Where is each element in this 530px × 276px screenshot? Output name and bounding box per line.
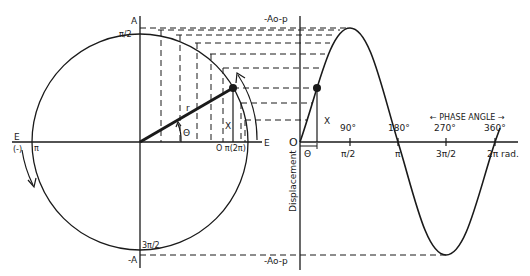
label-origin-O: O bbox=[289, 136, 298, 149]
rotation-arrow-left bbox=[22, 150, 33, 185]
tick-3pi-over-2: 3π/2 bbox=[436, 149, 456, 159]
label-phase-angle: ← PHASE ANGLE → bbox=[430, 113, 505, 122]
tick-2pi-rad: 2π rad. bbox=[487, 149, 519, 159]
label-E-left: E bbox=[14, 132, 20, 142]
label-E-right: E bbox=[264, 138, 270, 148]
tick-90deg: 90° bbox=[340, 123, 356, 133]
label-pi: π bbox=[34, 144, 39, 153]
tick-270deg: 270° bbox=[434, 123, 456, 133]
label-displacement: Displacement bbox=[288, 150, 298, 212]
tick-pi: π bbox=[395, 149, 401, 159]
label-Aop-bottom: -Ao-p bbox=[264, 256, 288, 266]
label-Aop-top: -Ao-p bbox=[264, 14, 288, 24]
tick-180deg: 180° bbox=[388, 123, 410, 133]
label-minus-sign: (-) bbox=[13, 145, 22, 154]
label-minus-A: -A bbox=[128, 255, 138, 265]
label-theta-circle: Θ bbox=[183, 128, 190, 138]
label-X-wave: X bbox=[324, 116, 330, 126]
label-3pi-over-2: 3π/2 bbox=[142, 241, 160, 250]
label-A: A bbox=[131, 16, 138, 26]
tick-pi-over-2: π/2 bbox=[341, 149, 355, 159]
label-r: r bbox=[186, 103, 190, 113]
label-theta-wave: Θ bbox=[304, 149, 311, 159]
tick-360deg: 360° bbox=[484, 123, 506, 133]
rotating-vector-sine-diagram: A π/2 E (-) π E O π(2π) 3π/2 -A r Θ X -A… bbox=[0, 0, 530, 276]
label-X-circle: X bbox=[225, 121, 231, 131]
label-pi-over-2: π/2 bbox=[119, 30, 132, 39]
label-0-2pi: O π(2π) bbox=[216, 144, 246, 153]
